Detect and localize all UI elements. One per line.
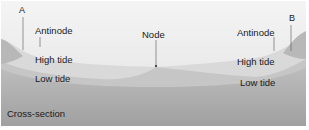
label-end-b: B [289, 14, 295, 23]
label-end-a: A [19, 6, 25, 15]
label-low-tide-left: Low tide [35, 74, 70, 84]
label-high-tide-left: High tide [35, 55, 73, 65]
label-low-tide-right: Low tide [240, 78, 275, 88]
caption-cross-section: Cross-section [7, 109, 65, 119]
label-high-tide-right: High tide [237, 57, 275, 67]
label-antinode-left: Antinode [35, 26, 73, 36]
label-node: Node [142, 30, 165, 40]
standing-wave-diagram: A B Antinode Node Antinode High tide Hig… [1, 1, 306, 126]
label-antinode-right: Antinode [237, 28, 275, 38]
node-point [155, 65, 157, 67]
